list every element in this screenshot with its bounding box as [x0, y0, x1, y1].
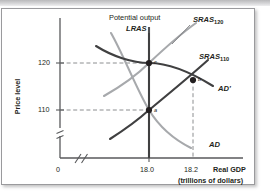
ad-prime-curve-label: AD' — [218, 85, 231, 93]
point-c-label: c — [154, 60, 157, 66]
potential-output-label: Potential output — [109, 14, 160, 21]
sras-120-curve-label: SRAS120 — [193, 16, 223, 24]
y-axis-break-icon — [57, 131, 64, 139]
equilibrium-point-a — [146, 107, 152, 113]
sras-110-curve-label: SRAS110 — [199, 53, 229, 61]
origin-label: 0 — [56, 166, 60, 173]
y-tick-label-120: 120 — [38, 59, 50, 66]
ad-curve-label: AD — [209, 141, 220, 149]
point-b-label: b — [198, 77, 201, 83]
lras-curve-label: LRAS — [126, 25, 147, 33]
x-tick-label-18-2: 18.2 — [184, 166, 198, 173]
leader-line-sras-120 — [172, 25, 190, 44]
y-axis-title: Price level — [13, 69, 22, 125]
equilibrium-point-c — [146, 60, 152, 66]
x-axis-title-line1: Real GDP — [213, 166, 246, 173]
x-tick-label-18-0: 18.0 — [140, 166, 154, 173]
equilibrium-point-b — [190, 77, 196, 83]
x-axis-title-line2: (trillions of dollars) — [178, 177, 243, 184]
point-a-label: a — [154, 108, 157, 114]
y-tick-label-110: 110 — [38, 106, 49, 113]
